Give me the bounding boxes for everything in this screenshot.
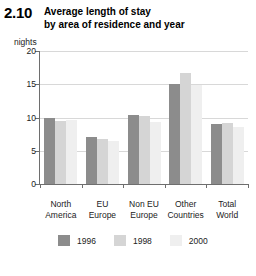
bar-1996 (86, 137, 97, 184)
category-label-line: Total (201, 199, 253, 210)
y-axis-tick-label: 10 (27, 113, 36, 123)
x-axis-line (39, 184, 248, 185)
bar-group (211, 51, 244, 184)
figure-title-line-1: Average length of stay (44, 6, 185, 19)
category-label-line: World (201, 210, 253, 221)
bar-1998 (97, 139, 108, 184)
bar-2000 (233, 127, 244, 184)
bar-group (169, 51, 202, 184)
x-axis-tick-mark (123, 184, 124, 188)
y-axis-tick-label: 0 (31, 179, 36, 189)
bar-1998 (180, 73, 191, 184)
legend-item: 1998 (114, 235, 152, 246)
category-label: TotalWorld (201, 199, 253, 221)
y-axis-tick-label: 20 (27, 46, 36, 56)
y-axis-unit-label: nights (14, 37, 256, 47)
legend-label: 1998 (133, 236, 152, 246)
bar-1996 (128, 115, 139, 184)
x-axis-tick-mark (206, 184, 207, 188)
bar-2000 (191, 85, 202, 184)
figure-number: 2.10 (4, 5, 44, 20)
bar-2000 (150, 122, 161, 184)
bar-group (86, 51, 119, 184)
figure-title: Average length of stay by area of reside… (44, 5, 185, 31)
bar-group (128, 51, 161, 184)
bar-group (44, 51, 77, 184)
legend-swatch (58, 235, 70, 246)
bar-2000 (108, 141, 119, 184)
figure-title-line-2: by area of residence and year (44, 19, 185, 32)
legend-item: 1996 (58, 235, 96, 246)
figure-header: 2.10 Average length of stay by area of r… (0, 0, 256, 31)
legend-label: 2000 (189, 236, 208, 246)
plot-region (40, 51, 248, 184)
category-labels: NorthAmericaEUEuropeNon EUEuropeOtherCou… (0, 199, 256, 227)
y-axis-tick-label: 5 (31, 146, 36, 156)
bar-1996 (211, 124, 222, 184)
legend-swatch (114, 235, 126, 246)
chart-legend: 199619982000 (0, 235, 256, 246)
chart-area: 05101520 (0, 49, 256, 199)
x-axis-tick-mark (40, 184, 41, 188)
bar-1996 (169, 84, 180, 184)
bar-1998 (55, 121, 66, 184)
bar-1996 (44, 118, 55, 185)
bar-2000 (66, 120, 77, 185)
x-axis-tick-mark (165, 184, 166, 188)
legend-label: 1996 (77, 236, 96, 246)
bar-1998 (139, 116, 150, 184)
x-axis-tick-mark (82, 184, 83, 188)
bar-1998 (222, 123, 233, 184)
legend-item: 2000 (170, 235, 208, 246)
y-axis-tick-label: 15 (27, 79, 36, 89)
x-axis-tick-mark (248, 184, 249, 188)
legend-swatch (170, 235, 182, 246)
